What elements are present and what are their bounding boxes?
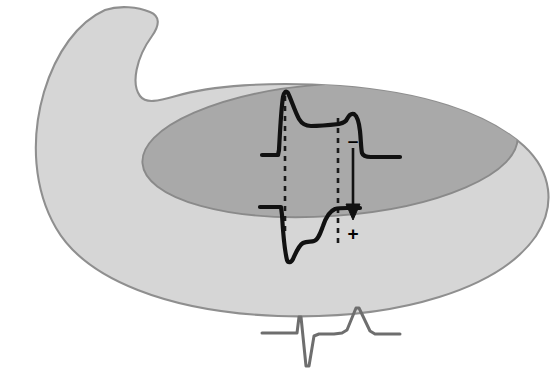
positive-polarity-sign: +	[347, 223, 358, 244]
negative-polarity-sign: –	[348, 130, 359, 151]
diagram-canvas: – +	[0, 0, 557, 385]
figure-root: – +	[0, 0, 557, 385]
